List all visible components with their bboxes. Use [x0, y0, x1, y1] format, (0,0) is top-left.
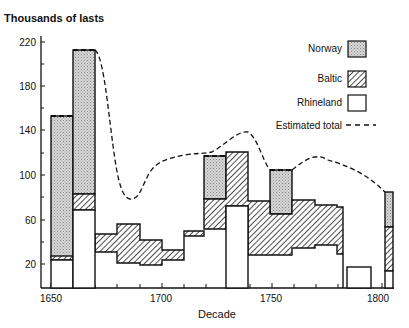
- y-tick-labels: 220 180 140 100 60 20: [19, 37, 36, 270]
- legend: Norway Baltic Rhineland Estimated total: [276, 41, 376, 131]
- x-tick-labels: 1650 1700 1750 1800: [40, 293, 390, 304]
- bar-norway-1660: [73, 50, 95, 194]
- timber-imports-chart: Thousands of lasts 220 180 140 100 60 20: [0, 0, 409, 328]
- legend-swatch-rhineland: [348, 95, 366, 111]
- legend-label-baltic: Baltic: [318, 73, 342, 84]
- bar-baltic-1800: [385, 227, 393, 271]
- legend-label-norway: Norway: [308, 43, 342, 54]
- x-tick-1800: 1800: [367, 293, 390, 304]
- y-tick-20: 20: [25, 259, 37, 270]
- bar-baltic-1660: [73, 194, 95, 210]
- y-tick-60: 60: [25, 215, 37, 226]
- x-tick-1650: 1650: [40, 293, 63, 304]
- legend-label-rhineland: Rhineland: [297, 97, 342, 108]
- bar-rhineland-1790: [347, 267, 371, 288]
- bar-rhineland-1800: [385, 271, 393, 288]
- y-tick-140: 140: [19, 125, 36, 136]
- bar-rhineland-1660: [73, 210, 95, 288]
- bar-baltic-1670-1710: [95, 224, 204, 265]
- bar-rhineland-1730: [226, 206, 248, 288]
- x-axis-title: Decade: [198, 308, 236, 320]
- bar-rhineland-1650: [51, 260, 73, 288]
- y-tick-220: 220: [19, 37, 36, 48]
- bar-norway-1720: [204, 156, 226, 199]
- legend-label-estimated-total: Estimated total: [276, 120, 342, 131]
- y-axis-title: Thousands of lasts: [4, 12, 104, 24]
- x-tick-1750: 1750: [260, 293, 283, 304]
- x-tick-1700: 1700: [150, 293, 173, 304]
- x-ticks: [51, 283, 382, 288]
- bar-norway-1750: [270, 170, 292, 214]
- y-tick-180: 180: [19, 81, 36, 92]
- bar-norway-1650: [51, 116, 73, 257]
- legend-swatch-norway: [348, 41, 366, 57]
- bar-norway-1800: [385, 192, 393, 227]
- legend-swatch-baltic: [348, 71, 366, 87]
- y-tick-100: 100: [19, 170, 36, 181]
